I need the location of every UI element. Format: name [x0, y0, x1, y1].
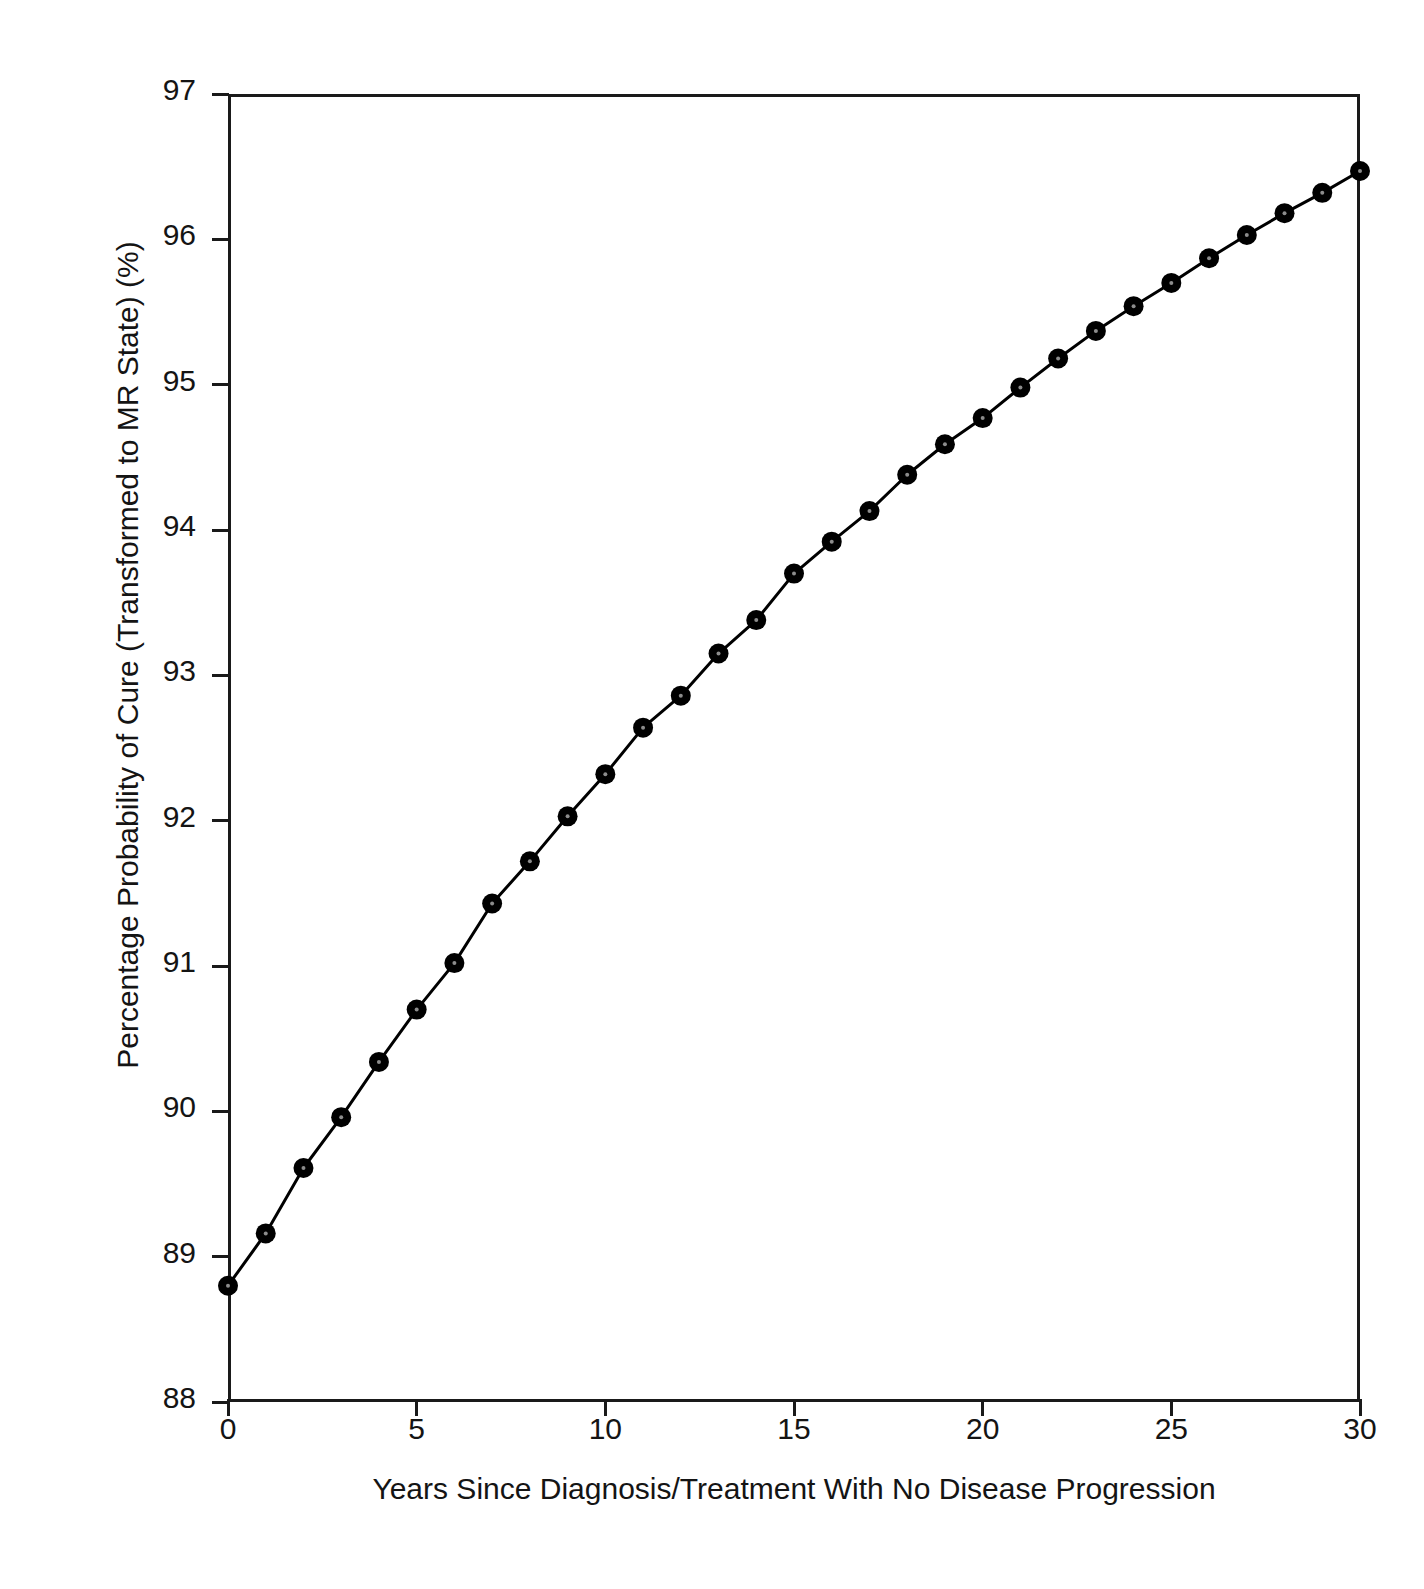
data-point-center: [1056, 357, 1060, 361]
y-tick-mark: [212, 1110, 229, 1113]
data-series-layer: [228, 94, 1360, 1402]
y-tick-mark: [212, 819, 229, 822]
x-axis-title: Years Since Diagnosis/Treatment With No …: [228, 1472, 1360, 1506]
data-point-center: [641, 726, 645, 730]
data-point-center: [867, 509, 871, 513]
data-point-center: [717, 652, 721, 656]
y-tick-mark: [212, 965, 229, 968]
data-point-center: [301, 1166, 305, 1170]
x-tick-label: 10: [565, 1414, 645, 1444]
x-tick-label: 30: [1320, 1414, 1400, 1444]
data-point-center: [1018, 386, 1022, 390]
data-point-center: [679, 694, 683, 698]
y-tick-label: 94: [163, 511, 196, 541]
y-tick-mark: [212, 383, 229, 386]
y-tick-mark: [212, 674, 229, 677]
data-point-center: [377, 1060, 381, 1064]
data-point-center: [1094, 329, 1098, 333]
data-point-center: [1169, 281, 1173, 285]
data-point-center: [452, 961, 456, 965]
data-point-center: [566, 814, 570, 818]
x-tick-label: 25: [1131, 1414, 1211, 1444]
data-point-center: [1207, 256, 1211, 260]
y-tick-mark: [212, 1255, 229, 1258]
data-point-center: [490, 902, 494, 906]
series-line: [228, 171, 1360, 1286]
y-tick-mark: [212, 93, 229, 96]
y-tick-mark: [212, 529, 229, 532]
y-tick-label: 91: [163, 947, 196, 977]
data-point-center: [528, 859, 532, 863]
data-point-center: [792, 572, 796, 576]
x-tick-label: 20: [943, 1414, 1023, 1444]
y-tick-label: 95: [163, 366, 196, 396]
x-tick-label: 0: [188, 1414, 268, 1444]
chart-figure: Percentage Probability of Cure (Transfor…: [0, 0, 1424, 1589]
y-tick-label: 92: [163, 802, 196, 832]
data-point-center: [1132, 304, 1136, 308]
data-point-center: [603, 772, 607, 776]
data-point-center: [943, 442, 947, 446]
data-point-center: [830, 540, 834, 544]
y-tick-label: 97: [163, 75, 196, 105]
data-point-center: [1283, 211, 1287, 215]
data-point-center: [1320, 191, 1324, 195]
data-point-center: [1358, 169, 1362, 173]
y-tick-label: 88: [163, 1383, 196, 1413]
data-point-center: [754, 618, 758, 622]
series-markers: [218, 161, 1370, 1296]
y-tick-label: 96: [163, 220, 196, 250]
data-point-center: [981, 416, 985, 420]
data-point-center: [1245, 233, 1249, 237]
data-point-center: [264, 1231, 268, 1235]
data-point-center: [415, 1008, 419, 1012]
x-tick-label: 15: [754, 1414, 834, 1444]
y-tick-label: 89: [163, 1238, 196, 1268]
data-point-center: [905, 473, 909, 477]
data-point-center: [226, 1284, 230, 1288]
x-tick-label: 5: [377, 1414, 457, 1444]
y-tick-label: 93: [163, 656, 196, 686]
y-tick-mark: [212, 238, 229, 241]
y-axis-title: Percentage Probability of Cure (Transfor…: [111, 65, 145, 1245]
y-tick-label: 90: [163, 1092, 196, 1122]
data-point-center: [339, 1115, 343, 1119]
